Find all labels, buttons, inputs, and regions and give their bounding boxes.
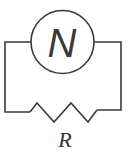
ac-source-symbol: N [48, 21, 77, 65]
wire-right [94, 42, 121, 110]
resistor-zigzag [30, 103, 97, 122]
wire-left [5, 42, 31, 112]
resistor-label: R [0, 127, 130, 153]
